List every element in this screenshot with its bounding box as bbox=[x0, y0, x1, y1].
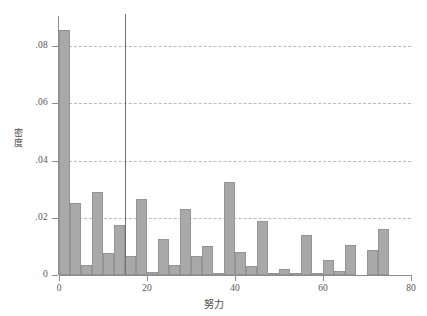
y-tick-label: .04 bbox=[36, 155, 48, 165]
x-tick-label: 80 bbox=[396, 283, 426, 293]
y-tick-label: .06 bbox=[36, 97, 48, 107]
x-tick-mark bbox=[235, 275, 236, 281]
gridline-y-1 bbox=[59, 218, 411, 219]
histogram-bar bbox=[92, 192, 103, 275]
histogram-bar bbox=[224, 182, 235, 275]
y-tick-label: .02 bbox=[36, 212, 48, 222]
histogram-bar bbox=[81, 265, 92, 275]
y-tick-mark bbox=[52, 161, 58, 162]
histogram-bar bbox=[345, 245, 356, 275]
histogram-bar bbox=[158, 239, 169, 275]
gridline-y-4 bbox=[59, 46, 411, 47]
histogram-bar bbox=[301, 235, 312, 275]
vertical-reference-line bbox=[125, 14, 126, 275]
x-tick-label: 20 bbox=[132, 283, 162, 293]
histogram-bar bbox=[246, 266, 257, 275]
x-tick-mark bbox=[411, 275, 412, 281]
histogram-bar bbox=[202, 246, 213, 275]
x-tick-mark bbox=[147, 275, 148, 281]
x-tick-mark bbox=[59, 275, 60, 281]
y-axis-line bbox=[58, 16, 59, 275]
histogram-bar bbox=[180, 209, 191, 275]
gridline-y-2 bbox=[59, 161, 411, 162]
x-tick-label: 60 bbox=[308, 283, 338, 293]
histogram-bar bbox=[367, 250, 378, 275]
histogram-bar bbox=[257, 221, 268, 275]
y-tick-mark bbox=[52, 46, 58, 47]
histogram-bar bbox=[235, 252, 246, 275]
histogram-bar bbox=[169, 265, 180, 275]
histogram-bar bbox=[323, 260, 334, 275]
histogram-bar bbox=[378, 229, 389, 275]
x-tick-label: 40 bbox=[220, 283, 250, 293]
y-tick-mark bbox=[52, 275, 58, 276]
y-tick-label: .08 bbox=[36, 40, 48, 50]
histogram-bar bbox=[103, 253, 114, 275]
histogram-bar bbox=[114, 225, 125, 275]
y-tick-mark bbox=[52, 218, 58, 219]
histogram-bar bbox=[59, 30, 70, 275]
gridline-y-3 bbox=[59, 103, 411, 104]
y-tick-label: 0 bbox=[43, 269, 48, 279]
histogram-bar bbox=[136, 199, 147, 275]
histogram-bar bbox=[70, 203, 81, 275]
x-axis-title: 努力 bbox=[0, 296, 427, 311]
x-tick-mark bbox=[323, 275, 324, 281]
histogram-chart: 0.02.04.06.08020406080 密度 努力 bbox=[0, 0, 427, 316]
histogram-bar bbox=[125, 256, 136, 275]
histogram-bar bbox=[191, 256, 202, 275]
y-tick-mark bbox=[52, 103, 58, 104]
y-axis-title: 密度 bbox=[12, 128, 24, 148]
plot-area bbox=[59, 16, 411, 275]
x-tick-label: 0 bbox=[44, 283, 74, 293]
